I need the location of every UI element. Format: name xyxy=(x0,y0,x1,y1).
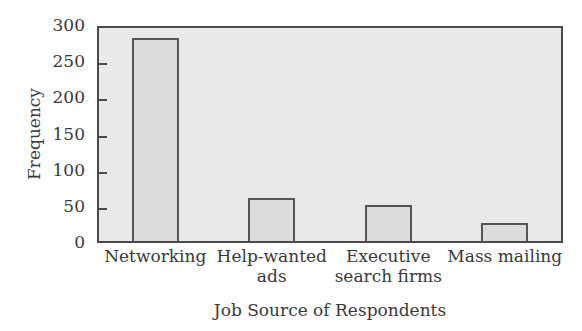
bar-mass-mailing xyxy=(481,223,528,241)
y-tick-label: 300 xyxy=(53,16,85,34)
y-tick-label: 50 xyxy=(63,197,85,215)
y-tick-label: 100 xyxy=(53,161,85,179)
bar-chart: Frequency 050100150200250300 NetworkingH… xyxy=(0,0,582,331)
y-tick-mark xyxy=(99,99,107,101)
bar-networking xyxy=(132,38,179,241)
bar-help-wanted-ads xyxy=(248,198,295,241)
x-category-label: Executivesearch firms xyxy=(335,246,442,286)
y-tick-mark xyxy=(99,208,107,210)
y-tick-label: 150 xyxy=(53,125,85,143)
y-tick-label: 250 xyxy=(53,52,85,70)
x-axis-title: Job Source of Respondents xyxy=(214,300,446,320)
y-tick-mark xyxy=(99,136,107,138)
bar-executive-search-firms xyxy=(365,205,412,241)
y-tick-label: 200 xyxy=(53,88,85,106)
x-category-label: Mass mailing xyxy=(447,246,562,266)
x-category-label: Help-wantedads xyxy=(217,246,327,286)
y-axis-title: Frequency xyxy=(24,88,44,180)
plot-area xyxy=(97,26,563,243)
y-tick-label: 0 xyxy=(74,233,85,251)
y-tick-mark xyxy=(99,63,107,65)
x-category-label: Networking xyxy=(104,246,206,266)
y-tick-mark xyxy=(99,172,107,174)
